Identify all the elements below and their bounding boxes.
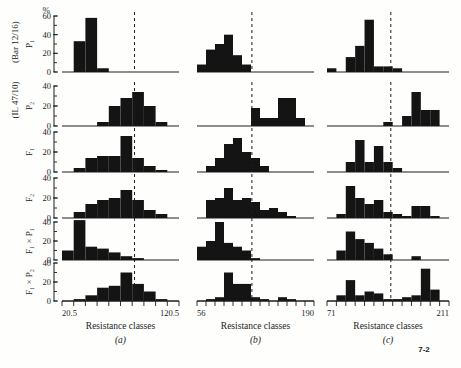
histogram-bar [97,249,109,260]
histogram-bar [374,66,383,72]
histogram-bar [121,136,133,172]
histogram-bar [206,241,215,260]
histogram-bar [430,110,439,126]
row-label-F: F₁ [24,148,34,156]
y-tick-label: 40 [43,30,52,40]
histogram-bar [355,140,364,172]
histogram-bar [224,273,233,302]
histogram-bar [156,122,168,126]
histogram-bar [393,168,402,172]
x-tick-label-max-a: 120.5 [160,308,179,318]
histogram-bar [74,212,86,218]
histogram-bar [355,239,364,260]
histogram-bar [215,222,224,260]
histogram-bar [296,118,305,126]
histogram-bar [411,295,420,301]
y-tick-label: 0 [47,67,51,77]
histogram-bar [242,284,251,301]
histogram-bar [278,98,287,126]
histogram-bar [327,68,336,72]
histogram-bar [132,284,144,301]
histogram-bar [62,251,74,261]
histogram-bar [374,293,383,301]
histogram-bar [233,247,242,260]
row-label-P: P₂ [24,102,34,110]
histogram-bar [374,200,383,218]
histogram-bar [346,162,355,172]
x-tick-label-min-b: 56 [197,308,206,318]
histogram-bar [215,198,224,218]
row-label-FP: F₁ × P₂ [24,269,34,295]
histogram-bar [215,297,224,301]
panel-label-c: (c) [383,335,394,346]
histogram-bar [365,204,374,218]
histogram-bar [156,214,168,218]
histogram-bar [402,116,411,126]
histogram-bar [74,168,86,172]
x-axis-title-a: Resistance classes [86,321,156,331]
histogram-bar [421,110,430,126]
histogram-bar [109,252,121,260]
histogram-bar [97,288,109,301]
histogram-bar [85,295,97,301]
histogram-bar [144,292,156,302]
histogram-bar [197,247,206,260]
histogram-bar [144,210,156,218]
histogram-bar [365,162,374,172]
histogram-bar [346,57,355,72]
histogram-bar [85,204,97,218]
histogram-bar [233,55,242,72]
histogram-bar [421,206,430,218]
histogram-bar [224,243,233,260]
histogram-bar [121,256,133,260]
histogram-bar [421,269,430,301]
histogram-bar [132,158,144,172]
histogram-bar [215,44,224,72]
histogram-bar [233,138,242,172]
y-tick-label: 20 [43,147,52,157]
x-axis-title-c: Resistance classes [353,321,423,331]
panel-label-b: (b) [250,335,261,346]
y-tick-label: 40 [43,81,52,91]
histogram-bar [74,41,86,72]
cross-label-bar: (Bar 12/16) [10,21,20,63]
histogram-bar [85,158,97,172]
panel-label-a: (a) [115,335,126,346]
histogram-bar [260,118,269,126]
histogram-bar [242,198,251,218]
histogram-bar [242,65,251,72]
histogram-bar [132,92,144,126]
histogram-bar [260,166,269,172]
y-tick-label: 40 [43,258,52,268]
histogram-bar [156,170,168,172]
y-tick-label: 60 [43,11,52,21]
histogram-bar [144,106,156,126]
figure-7-2: %0204060P₁02040P₂02040F₁02040F₂02040F₁ ×… [0,0,461,368]
histogram-bar [336,214,345,218]
histogram-bar [224,188,233,218]
histogram-bar [233,200,242,218]
histogram-bar [144,166,156,172]
x-tick-label-min-c: 71 [327,308,336,318]
histogram-bar [109,286,121,301]
y-tick-label: 20 [43,48,52,58]
histogram-bar [224,35,233,72]
histogram-bar [430,216,439,218]
histogram-bar [121,190,133,218]
histogram-bar [109,198,121,218]
y-tick-label: 40 [43,217,52,227]
histogram-bar [336,251,345,261]
histogram-bar [260,210,269,218]
histogram-bar [278,297,287,301]
histogram-bar [242,152,251,172]
histogram-bar [206,50,215,72]
histogram-bar [393,214,402,218]
histogram-bar [365,20,374,72]
x-tick-label-min-a: 20.5 [62,308,77,318]
histogram-bar [206,166,215,172]
histogram-bar [365,243,374,260]
histogram-bar [85,247,97,260]
histogram-bar [411,206,420,218]
histogram-bar [132,200,144,218]
x-tick-label-max-c: 211 [437,308,449,318]
